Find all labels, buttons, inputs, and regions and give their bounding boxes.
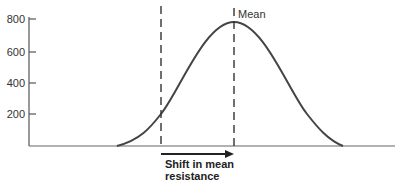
arrow-head-icon — [225, 150, 234, 158]
bell-curve — [117, 22, 343, 146]
y-ticks — [29, 19, 36, 114]
y-tick-label-600: 600 — [7, 46, 25, 58]
shift-label-line2: resistance — [165, 170, 219, 182]
y-tick-label-800: 800 — [7, 13, 25, 25]
mean-label: Mean — [238, 8, 266, 20]
shift-label-line1: Shift in mean — [165, 158, 234, 170]
chart: 800 600 400 200 Mean Shift in mean resis… — [0, 0, 395, 183]
y-tick-label-200: 200 — [7, 108, 25, 120]
y-tick-label-400: 400 — [7, 77, 25, 89]
